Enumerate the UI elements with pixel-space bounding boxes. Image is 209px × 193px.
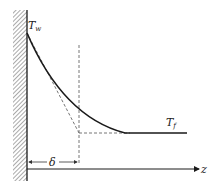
z-axis-label: z (200, 163, 207, 176)
tangent-line (27, 33, 79, 133)
wall-hatch (13, 10, 27, 181)
delta-label: δ (49, 156, 56, 169)
wall-temperature-label: Tw (28, 19, 41, 33)
temperature-curve (27, 33, 187, 133)
fluid-temperature-label: Tf (166, 116, 177, 130)
temperature-profile-diagram: Tw Tf δ z (0, 0, 209, 193)
